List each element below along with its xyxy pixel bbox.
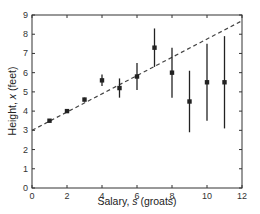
square-marker bbox=[47, 119, 51, 123]
x-tick-label: 10 bbox=[202, 191, 212, 201]
x-tick-label: 2 bbox=[64, 191, 69, 201]
data-points bbox=[47, 28, 226, 132]
y-tick-label: 8 bbox=[23, 29, 28, 39]
data-point bbox=[82, 97, 86, 101]
data-point bbox=[222, 36, 226, 128]
square-marker bbox=[205, 80, 209, 84]
data-point bbox=[135, 63, 139, 90]
plot-frame bbox=[32, 15, 242, 188]
square-marker bbox=[187, 99, 191, 103]
y-tick-label: 2 bbox=[23, 145, 28, 155]
data-point bbox=[47, 119, 51, 123]
y-tick-label: 6 bbox=[23, 68, 28, 78]
x-tick-label: 0 bbox=[29, 191, 34, 201]
y-tick-label: 7 bbox=[23, 48, 28, 58]
data-point bbox=[117, 78, 121, 97]
square-marker bbox=[117, 86, 121, 90]
x-axis-label: Salary, s (groats) bbox=[97, 195, 176, 207]
y-tick-label: 4 bbox=[23, 106, 28, 116]
y-tick-label: 3 bbox=[23, 125, 28, 135]
y-axis-label: Height, x (feet) bbox=[6, 67, 18, 136]
y-tick-label: 1 bbox=[23, 164, 28, 174]
square-marker bbox=[65, 109, 69, 113]
scatter-chart: 0123456789 024681012 Salary, s (groats) … bbox=[0, 0, 260, 214]
square-marker bbox=[100, 78, 104, 82]
data-point bbox=[205, 44, 209, 121]
square-marker bbox=[222, 80, 226, 84]
y-axis-ticks: 0123456789 bbox=[23, 10, 242, 193]
y-tick-label: 0 bbox=[23, 183, 28, 193]
x-axis-ticks: 024681012 bbox=[29, 15, 247, 201]
data-point bbox=[170, 48, 174, 98]
x-tick-label: 12 bbox=[237, 191, 247, 201]
square-marker bbox=[135, 74, 139, 78]
y-tick-label: 9 bbox=[23, 10, 28, 20]
data-point bbox=[152, 28, 156, 66]
square-marker bbox=[152, 45, 156, 49]
data-point bbox=[187, 71, 191, 133]
y-tick-label: 5 bbox=[23, 87, 28, 97]
data-point bbox=[65, 109, 69, 113]
data-point bbox=[100, 75, 104, 87]
square-marker bbox=[82, 97, 86, 101]
square-marker bbox=[170, 70, 174, 74]
